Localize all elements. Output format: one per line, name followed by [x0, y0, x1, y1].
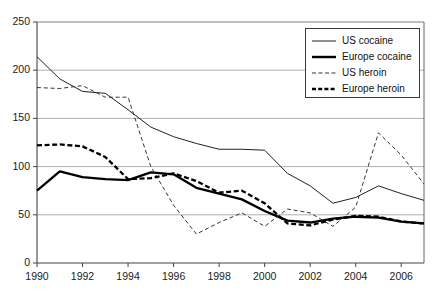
- x-tick-label: 2002: [290, 270, 330, 282]
- x-tick-label: 1992: [63, 270, 103, 282]
- series-europe-heroin: [37, 144, 424, 225]
- legend-label-europe-heroin: Europe heroin: [342, 83, 405, 95]
- x-tick-label: 2006: [381, 270, 421, 282]
- x-tick-label: 2004: [336, 270, 376, 282]
- line-chart: 050100150200250 199019921994199619982000…: [0, 0, 438, 295]
- x-tick-label: 1998: [199, 270, 239, 282]
- y-tick-label: 250: [0, 15, 30, 27]
- legend-label-europe-cocaine: Europe cocaine: [342, 51, 412, 63]
- legend-item-europe-heroin: Europe heroin: [311, 81, 414, 97]
- y-tick-label: 0: [0, 256, 30, 268]
- legend-item-europe-cocaine: Europe cocaine: [311, 49, 414, 65]
- legend-swatch-europe-cocaine: [311, 51, 337, 63]
- legend: US cocaine Europe cocaine US heroin Euro…: [305, 28, 420, 98]
- legend-label-us-cocaine: US cocaine: [342, 35, 393, 47]
- x-tick-label: 2000: [245, 270, 285, 282]
- legend-item-us-heroin: US heroin: [311, 65, 414, 81]
- legend-item-us-cocaine: US cocaine: [311, 33, 414, 49]
- series-us-heroin: [37, 86, 424, 234]
- legend-swatch-europe-heroin: [311, 83, 337, 95]
- y-tick-label: 150: [0, 111, 30, 123]
- x-tick-label: 1990: [17, 270, 57, 282]
- y-tick-label: 50: [0, 208, 30, 220]
- x-tick-label: 1996: [154, 270, 194, 282]
- legend-swatch-us-cocaine: [311, 35, 337, 47]
- y-tick-label: 100: [0, 160, 30, 172]
- series-europe-cocaine: [37, 171, 424, 223]
- x-tick-label: 1994: [108, 270, 148, 282]
- legend-swatch-us-heroin: [311, 67, 337, 79]
- y-tick-label: 200: [0, 63, 30, 75]
- legend-label-us-heroin: US heroin: [342, 67, 386, 79]
